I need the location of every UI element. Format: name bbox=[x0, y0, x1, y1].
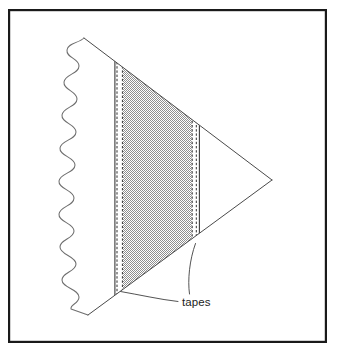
leader-to-left-tape bbox=[121, 292, 179, 302]
ply-drop-diagram: tapes bbox=[0, 0, 337, 352]
shaded-ply-region bbox=[123, 20, 192, 340]
leader-to-right-tape bbox=[189, 244, 196, 295]
tapes-label: tapes bbox=[182, 296, 211, 308]
shaded-region-group bbox=[123, 20, 192, 340]
right-tape bbox=[192, 20, 200, 340]
figure-root: tapes bbox=[0, 0, 337, 352]
wavy-torn-edge bbox=[59, 38, 88, 315]
